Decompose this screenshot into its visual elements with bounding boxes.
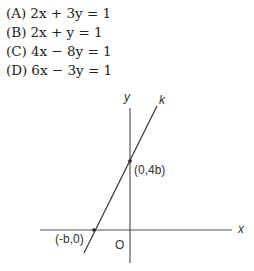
x-axis-label: x: [237, 222, 245, 236]
y-axis-label: y: [123, 90, 131, 104]
coordinate-diagram: x y k O (0,4b) (-b,0): [0, 0, 254, 271]
y-intercept-label: (0,4b): [134, 163, 165, 177]
line-k-label: k: [159, 93, 166, 107]
origin-label: O: [115, 238, 124, 252]
x-intercept-label: (-b,0): [55, 232, 84, 246]
y-intercept-point: [128, 159, 132, 163]
x-intercept-point: [92, 228, 96, 232]
